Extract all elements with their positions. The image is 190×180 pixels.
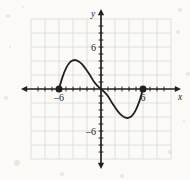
y-axis-arrow-down <box>98 163 104 169</box>
graph-figure: xy–666–6 <box>0 0 190 180</box>
endpoint-dot <box>56 86 62 92</box>
coordinate-plane: xy–666–6 <box>0 0 190 180</box>
y-axis-arrow-up <box>98 9 104 15</box>
y-tick-label: 6 <box>91 42 96 53</box>
y-tick-label: –6 <box>85 126 96 137</box>
y-axis-label: y <box>90 9 96 19</box>
x-axis-label: x <box>177 92 183 102</box>
x-axis-arrow-left <box>21 86 27 92</box>
endpoint-dot <box>140 86 146 92</box>
x-tick-label: –6 <box>53 92 64 103</box>
